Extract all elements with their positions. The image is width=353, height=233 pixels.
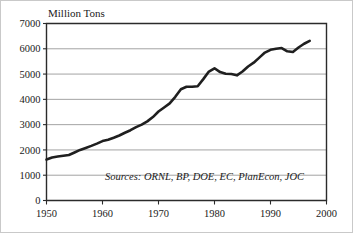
- x-tick-label: 1980: [204, 208, 225, 219]
- y-tick-label: 7000: [20, 18, 41, 29]
- x-tick-label: 1960: [92, 208, 113, 219]
- x-tick-label: 1970: [148, 208, 169, 219]
- y-tick-label: 2000: [20, 145, 41, 156]
- y-tick-label: 1000: [20, 170, 41, 181]
- y-tick-label: 3000: [20, 119, 41, 130]
- plot-area: 0100020003000400050006000700019501960197…: [1, 1, 353, 233]
- y-tick-label: 5000: [20, 69, 41, 80]
- y-tick-label: 4000: [20, 94, 41, 105]
- data-series-line: [47, 41, 310, 160]
- x-tick-label: 1950: [36, 208, 57, 219]
- emissions-line-chart: Million Tons 010002000300040005000600070…: [0, 0, 353, 233]
- y-tick-label: 6000: [20, 43, 41, 54]
- x-tick-label: 1990: [260, 208, 281, 219]
- y-tick-label: 0: [35, 195, 40, 206]
- sources-note: Sources: ORNL, BP, DOE, EC, PlanEcon, JO…: [105, 171, 305, 182]
- x-tick-label: 2000: [316, 208, 337, 219]
